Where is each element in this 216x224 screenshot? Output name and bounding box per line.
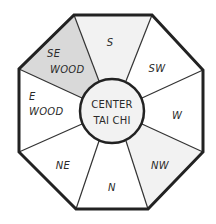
- label-ne: NE: [56, 160, 71, 171]
- center-circle: [80, 79, 144, 143]
- label-sw: SW: [149, 63, 167, 74]
- bagua-diagram: S SW W NW N NE E WOOD SE WOOD CENTER TAI…: [0, 0, 216, 224]
- center-label-line1: CENTER: [91, 99, 132, 110]
- label-se-line2: WOOD: [50, 64, 85, 75]
- label-nw: NW: [151, 160, 170, 171]
- label-se-line1: SE: [47, 48, 61, 59]
- label-s: S: [107, 37, 114, 48]
- label-n: N: [108, 182, 116, 193]
- label-e-line1: E: [29, 91, 36, 102]
- center-label-line2: TAI CHI: [92, 115, 130, 126]
- label-e-line2: WOOD: [29, 106, 64, 117]
- label-w: W: [172, 110, 183, 121]
